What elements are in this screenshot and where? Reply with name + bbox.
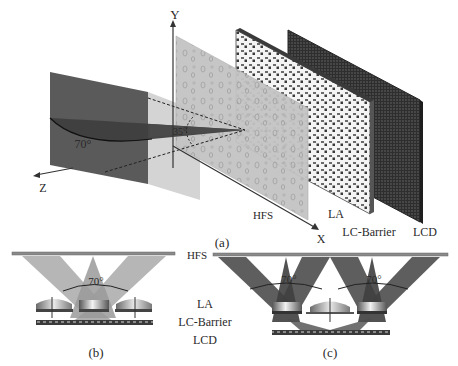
lc-barrier-layer-label: LC-Barrier — [342, 225, 395, 239]
z-axis-label: Z — [39, 181, 46, 195]
panel-b-side-view: 70° (b) — [12, 252, 175, 360]
side-label-hfs: HFS — [187, 249, 207, 261]
panel-c-angle-right-label: 70° — [366, 273, 381, 285]
lcd-layer-label: LCD — [413, 225, 437, 239]
layer-side-labels: HFS LA LC-Barrier LCD — [178, 249, 231, 347]
hfs-layer-label: HFS — [253, 209, 273, 221]
panel-b-caption: (b) — [88, 345, 103, 360]
hfs-bar-c — [213, 253, 448, 256]
hfs-bar-b — [12, 252, 175, 255]
la-layer-label: LA — [328, 207, 344, 221]
panel-b-angle-label: 70° — [88, 275, 103, 287]
panel-a-caption: (a) — [215, 235, 229, 250]
figure: Y X Z 70° 35° HFS LA LC-Barrier LCD (a) — [0, 0, 458, 366]
y-axis-label: Y — [170, 7, 180, 22]
panel-c-angle-left-label: 70° — [281, 273, 296, 285]
z-axis — [36, 168, 73, 175]
panel-c-caption: (c) — [323, 345, 337, 360]
side-label-la: LA — [197, 297, 213, 311]
side-label-lc-barrier: LC-Barrier — [178, 315, 231, 329]
angle-70-label: 70° — [75, 137, 92, 151]
panel-c-side-view: 70° 70° (c) — [213, 253, 448, 360]
x-axis-label: X — [317, 232, 326, 246]
panel-a-3d-view: Y X Z 70° 35° HFS LA LC-Barrier LCD (a) — [33, 7, 437, 250]
side-label-lcd: LCD — [193, 333, 217, 347]
lcd-strip-c — [272, 330, 390, 335]
diagram-canvas: Y X Z 70° 35° HFS LA LC-Barrier LCD (a) — [0, 0, 458, 366]
angle-35-label: 35° — [173, 126, 187, 137]
lcd-strip-b — [36, 320, 153, 325]
